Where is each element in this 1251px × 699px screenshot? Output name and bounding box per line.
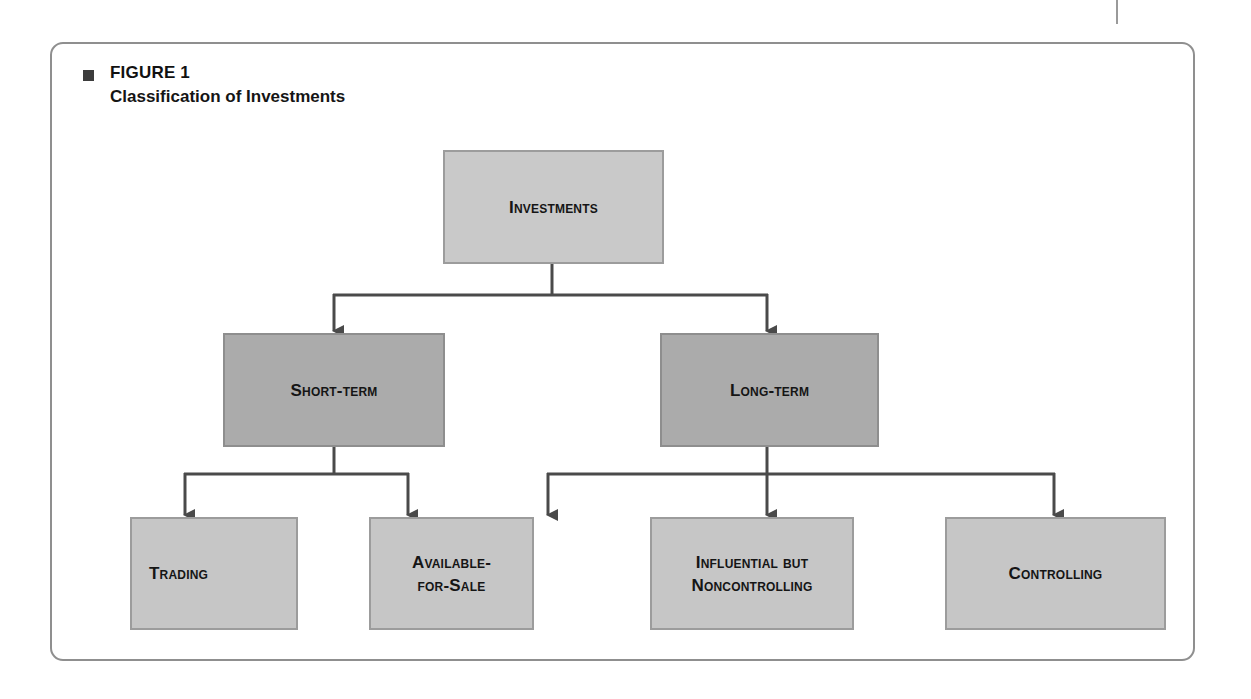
node-influential-noncontrolling: Influential but Noncontrolling (650, 517, 854, 630)
figure-title: Classification of Investments (110, 87, 345, 107)
page-edge-tick (1116, 0, 1118, 24)
node-long-term-label: Long-term (730, 379, 809, 402)
node-investments-label: Investments (509, 196, 598, 219)
node-afs-line1: Available- (412, 551, 491, 574)
figure-marker-square-icon (83, 70, 94, 81)
node-short-term: Short-term (223, 333, 445, 447)
node-trading-label: Trading (149, 562, 208, 585)
node-controlling: Controlling (945, 517, 1166, 630)
node-investments: Investments (443, 150, 664, 264)
node-controlling-label: Controlling (1009, 562, 1103, 585)
node-available-for-sale: Available- for-Sale (369, 517, 534, 630)
figure-label: FIGURE 1 (110, 63, 190, 83)
node-influential-line2: Noncontrolling (691, 574, 812, 597)
node-influential-line1: Influential but (696, 551, 808, 574)
node-trading: Trading (130, 517, 298, 630)
node-long-term: Long-term (660, 333, 879, 447)
node-afs-line2: for-Sale (418, 574, 486, 597)
node-short-term-label: Short-term (291, 379, 378, 402)
